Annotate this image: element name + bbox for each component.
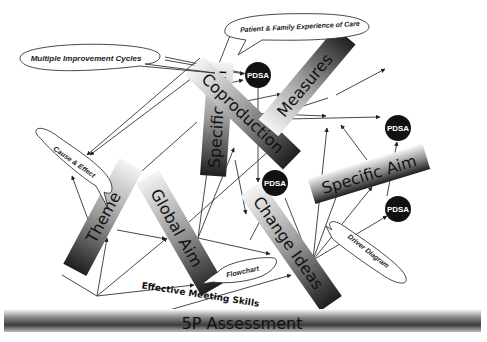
connector	[62, 275, 97, 296]
connector	[87, 58, 200, 155]
connector	[235, 160, 246, 214]
pdsa-node-right-bottom: PDSA	[385, 196, 411, 222]
connector	[72, 176, 90, 225]
connector	[336, 69, 385, 95]
pdsa-node-right-top: PDSA	[385, 115, 411, 141]
bar-label: Global Aim	[147, 186, 207, 271]
pdsa-label: PDSA	[264, 179, 286, 188]
bar-label: 5P Assessment	[182, 314, 303, 333]
connector	[117, 230, 166, 239]
bubble-label: Multiple Improvement Cycles	[31, 54, 142, 63]
connector	[90, 72, 200, 155]
bubble-multiple-improvement-cycles: Multiple Improvement Cycles	[20, 44, 215, 73]
connector	[198, 238, 270, 254]
bar-label: Change Ideas	[249, 193, 327, 293]
bar-specific-aim-right: Specific Aim	[308, 144, 430, 204]
bar-5p-assessment: 5P Assessment	[4, 309, 481, 333]
pdsa-label: PDSA	[247, 71, 269, 80]
connector	[198, 172, 207, 238]
connector	[134, 122, 197, 178]
quality-improvement-diagram: Specific Aim Coproduction Measures Theme…	[0, 0, 487, 342]
pdsa-node-middle: PDSA	[262, 170, 288, 196]
bar-change-ideas: Change Ideas	[240, 181, 342, 311]
pdsa-label: PDSA	[387, 205, 409, 214]
connector	[341, 125, 367, 160]
pdsa-label: PDSA	[387, 124, 409, 133]
bubble-driver-diagram: Driver Diagram	[326, 222, 406, 283]
bar-label: Measures	[273, 50, 337, 121]
pdsa-node-top: PDSA	[245, 62, 271, 88]
bar-measures: Measures	[258, 28, 355, 137]
